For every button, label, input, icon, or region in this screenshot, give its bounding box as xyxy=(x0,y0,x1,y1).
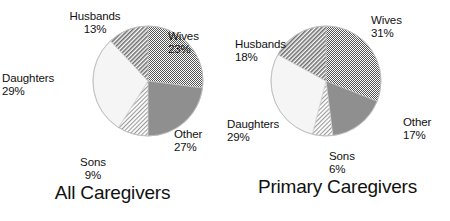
pie-label-daughters-name: Daughters xyxy=(227,118,279,130)
pie-label-husbands-name: Husbands xyxy=(70,10,121,22)
pie-label-husbands-name: Husbands xyxy=(235,38,286,50)
pie-label-wives-value: 31% xyxy=(371,27,431,40)
pie-label-sons: Sons 9% xyxy=(68,156,118,182)
chart-title-primary-caregivers: Primary Caregivers xyxy=(225,176,450,198)
pie-label-other: Other 17% xyxy=(403,116,449,142)
pie-label-other-name: Other xyxy=(174,128,202,140)
pie-label-other: Other 27% xyxy=(174,128,224,154)
pie-label-wives: Wives 23% xyxy=(168,30,224,56)
pie-label-husbands-value: 18% xyxy=(235,51,307,64)
pie-label-sons-value: 9% xyxy=(68,169,118,182)
pie-label-husbands: Husbands 18% xyxy=(235,38,307,64)
pie-label-husbands: Husbands 13% xyxy=(56,10,134,36)
pie-label-other-name: Other xyxy=(403,116,431,128)
pie-label-sons-name: Sons xyxy=(80,156,106,168)
pie-label-wives: Wives 31% xyxy=(371,14,431,40)
pie-label-daughters: Daughters 29% xyxy=(2,72,74,98)
pie-label-other-value: 17% xyxy=(403,129,449,142)
pie-label-husbands-value: 13% xyxy=(56,23,134,36)
pie-chart-figure: Husbands 13% Wives 23% Daughters 29% Son… xyxy=(0,0,450,221)
chart-panel-primary-caregivers: Wives 31% Husbands 18% Daughters 29% Son… xyxy=(225,0,450,221)
chart-panel-all-caregivers: Husbands 13% Wives 23% Daughters 29% Son… xyxy=(0,0,225,221)
chart-title-all-caregivers: All Caregivers xyxy=(0,182,225,204)
pie-label-daughters-name: Daughters xyxy=(2,72,54,84)
pie-label-wives-name: Wives xyxy=(168,30,199,42)
pie-label-sons-name: Sons xyxy=(329,150,355,162)
pie-label-daughters-value: 29% xyxy=(2,85,74,98)
pie-label-other-value: 27% xyxy=(174,141,224,154)
pie-label-daughters: Daughters 29% xyxy=(227,118,301,144)
pie-label-sons: Sons 6% xyxy=(329,150,379,176)
pie-label-wives-name: Wives xyxy=(371,14,402,26)
pie-label-wives-value: 23% xyxy=(168,43,224,56)
pie-label-sons-value: 6% xyxy=(329,163,379,176)
pie-label-daughters-value: 29% xyxy=(227,131,301,144)
